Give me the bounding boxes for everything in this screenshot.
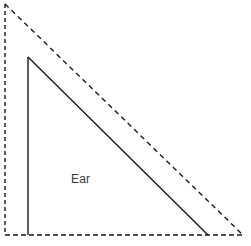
dashed-hypotenuse — [5, 4, 243, 235]
geometry-figure — [0, 0, 251, 246]
region-label-ear: Ear — [71, 173, 90, 185]
solid-hypotenuse — [28, 57, 208, 235]
figure-canvas: Ear — [0, 0, 251, 246]
